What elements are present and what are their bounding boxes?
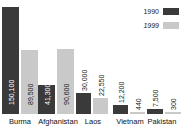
bar-vietnam-1990: 12,200 (113, 105, 128, 114)
bar-value-label: 7,500 (152, 89, 159, 107)
bar-afghanistan-1999: 90,600 (57, 49, 74, 114)
bar-value-label: 150,100 (7, 80, 14, 105)
bar-afghanistan-1990: 41,300 (38, 85, 55, 114)
bar-group: 12,200440 (113, 0, 145, 114)
bar-value-label: 22,550 (97, 75, 104, 96)
bar-group: 150,10089,500 (2, 0, 38, 114)
axis-label-laos: Laos (76, 117, 110, 126)
bar-laos-1999: 22,550 (93, 98, 108, 114)
bar-value-label: 440 (134, 98, 141, 110)
bar-value-label: 41,300 (43, 84, 50, 105)
bar-value-label: 12,200 (117, 82, 124, 103)
plot-area: 150,10089,50041,30090,60030,00022,55012,… (0, 0, 181, 114)
category-axis: BurmaAfghanistanLaosVietnamPakistan (0, 114, 181, 132)
bar-value-label: 30,000 (80, 70, 87, 91)
axis-label-pakistan: Pakistan (143, 117, 181, 126)
bar-group: 30,00022,550 (76, 0, 108, 114)
bar-value-label: 89,500 (26, 84, 33, 105)
bar-value-label: 90,600 (62, 84, 69, 105)
bar-value-label: 300 (170, 98, 177, 110)
bar-chart: 1990 1999 150,10089,50041,30090,60030,00… (0, 0, 181, 132)
bar-burma-1990: 150,100 (2, 7, 19, 114)
bar-group: 41,30090,600 (38, 0, 74, 114)
bar-laos-1990: 30,000 (76, 93, 91, 114)
bar-group: 7,500300 (147, 0, 181, 114)
bar-burma-1999: 89,500 (21, 50, 38, 114)
